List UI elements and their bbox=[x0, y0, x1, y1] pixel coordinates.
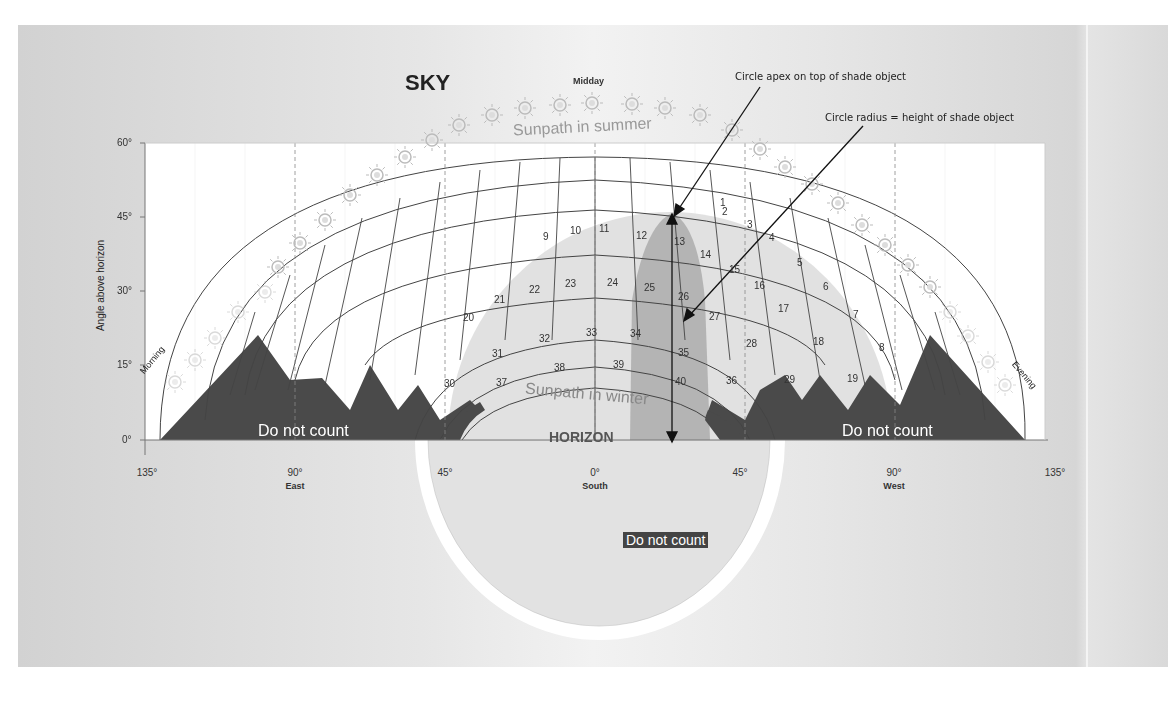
y-tick-60: 60° bbox=[117, 137, 132, 148]
cell-7: 7 bbox=[853, 309, 859, 320]
cell-38: 38 bbox=[554, 362, 565, 373]
cell-32: 32 bbox=[539, 333, 550, 344]
x-label-west: West bbox=[864, 481, 924, 491]
cell-3: 3 bbox=[747, 219, 753, 230]
x-tick-90-east: 90° bbox=[265, 467, 325, 478]
x-tick-45-west: 45° bbox=[710, 467, 770, 478]
x-tick-135-west: 135° bbox=[1025, 467, 1085, 478]
cell-2: 2 bbox=[722, 206, 728, 217]
cell-12: 12 bbox=[636, 230, 647, 241]
x-tick-90-west: 90° bbox=[864, 467, 924, 478]
annotation-radius: Circle radius = height of shade object bbox=[825, 112, 1014, 123]
cell-11: 11 bbox=[599, 223, 609, 234]
do-not-count-left: Do not count bbox=[258, 422, 349, 440]
cell-33: 33 bbox=[586, 327, 597, 338]
cell-16: 16 bbox=[754, 280, 765, 291]
cell-5: 5 bbox=[797, 257, 803, 268]
x-label-south: South bbox=[565, 481, 625, 491]
cell-18: 18 bbox=[813, 336, 824, 347]
cell-40: 40 bbox=[675, 376, 686, 387]
x-label-east: East bbox=[265, 481, 325, 491]
cell-30: 30 bbox=[444, 378, 455, 389]
cell-29: 29 bbox=[784, 374, 795, 385]
do-not-count-right: Do not count bbox=[842, 422, 933, 440]
cell-35: 35 bbox=[678, 347, 689, 358]
cell-22: 22 bbox=[529, 284, 540, 295]
cell-31: 31 bbox=[492, 348, 503, 359]
annotation-apex: Circle apex on top of shade object bbox=[735, 71, 906, 82]
cell-27: 27 bbox=[709, 311, 720, 322]
cell-13: 13 bbox=[674, 236, 685, 247]
do-not-count-bottom: Do not count bbox=[623, 532, 708, 548]
y-axis-label: Angle above horizon bbox=[95, 240, 106, 331]
cell-34: 34 bbox=[630, 328, 641, 339]
x-tick-135-east: 135° bbox=[117, 467, 177, 478]
x-tick-0: 0° bbox=[565, 467, 625, 478]
cell-19: 19 bbox=[847, 373, 858, 384]
cell-23: 23 bbox=[565, 278, 576, 289]
y-tick-0: 0° bbox=[122, 434, 132, 445]
cell-8: 8 bbox=[879, 342, 885, 353]
cell-15: 15 bbox=[729, 264, 740, 275]
cell-26: 26 bbox=[678, 291, 689, 302]
y-tick-30: 30° bbox=[117, 285, 132, 296]
cell-28: 28 bbox=[746, 338, 757, 349]
horizon-label: HORIZON bbox=[549, 429, 614, 445]
midday-label: Midday bbox=[573, 76, 604, 86]
x-tick-45-east: 45° bbox=[415, 467, 475, 478]
cell-20: 20 bbox=[463, 312, 474, 323]
y-tick-45: 45° bbox=[117, 211, 132, 222]
cell-37: 37 bbox=[496, 377, 507, 388]
cell-14: 14 bbox=[700, 249, 711, 260]
cell-6: 6 bbox=[823, 281, 829, 292]
cell-9: 9 bbox=[543, 231, 549, 242]
y-tick-15: 15° bbox=[117, 359, 132, 370]
cell-24: 24 bbox=[607, 277, 618, 288]
cell-36: 36 bbox=[726, 375, 737, 386]
sunpath-diagram bbox=[0, 0, 1168, 710]
cell-10: 10 bbox=[570, 225, 581, 236]
cell-21: 21 bbox=[494, 294, 505, 305]
cell-39: 39 bbox=[613, 359, 624, 370]
cell-17: 17 bbox=[778, 303, 789, 314]
cell-4: 4 bbox=[769, 232, 775, 243]
cell-25: 25 bbox=[644, 282, 655, 293]
diagram-title: SKY bbox=[405, 70, 450, 96]
